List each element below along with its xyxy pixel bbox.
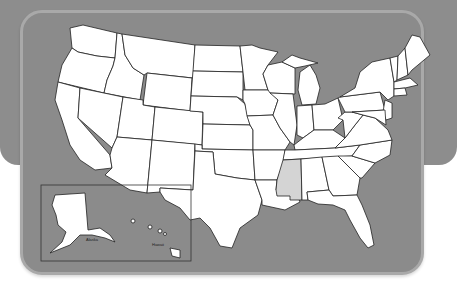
state-michigan[interactable] bbox=[298, 65, 320, 105]
alaska-label: Alaska bbox=[86, 237, 99, 242]
state-hawaii[interactable] bbox=[170, 248, 180, 258]
hawaii-label: Hawaii bbox=[152, 242, 164, 247]
states bbox=[55, 25, 430, 248]
state-colorado[interactable] bbox=[152, 107, 203, 145]
state-new-york[interactable] bbox=[340, 58, 394, 100]
hawaii-island-3 bbox=[158, 229, 162, 233]
us-map: Alaska Hawaii bbox=[0, 0, 457, 284]
state-wyoming[interactable] bbox=[143, 73, 192, 111]
state-florida[interactable] bbox=[307, 190, 374, 248]
state-maine[interactable] bbox=[405, 35, 430, 75]
hawaii-island-4 bbox=[164, 233, 167, 236]
hawaii-island-1 bbox=[131, 219, 135, 223]
state-wisconsin[interactable] bbox=[263, 62, 295, 94]
state-kansas[interactable] bbox=[202, 124, 253, 150]
hawaii-island-2 bbox=[148, 225, 152, 229]
state-south-dakota[interactable] bbox=[191, 71, 243, 100]
state-north-dakota[interactable] bbox=[193, 45, 243, 72]
state-connecticut[interactable] bbox=[394, 88, 407, 96]
state-alaska[interactable] bbox=[50, 193, 115, 253]
